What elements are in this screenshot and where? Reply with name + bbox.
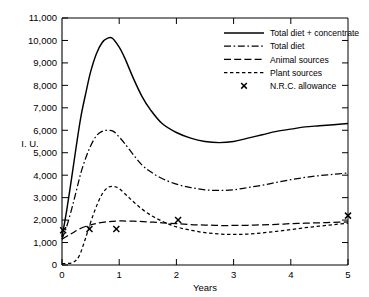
x-tick-label: 1	[117, 269, 122, 280]
y-tick-label: 0	[52, 259, 57, 270]
x-axis-title: Years	[193, 282, 217, 293]
chart-legend: Total diet + concentrateTotal dietAnimal…	[224, 28, 359, 91]
x-tick-label: 0	[59, 269, 64, 280]
y-axis-title: I. U.	[21, 138, 38, 149]
y-tick-label: 11,000	[29, 12, 57, 23]
y-tick-label: 3,000	[33, 192, 57, 203]
y-tick-label: 9,000	[33, 57, 57, 68]
line-chart: 01,0002,0003,0004,0005,0006,0007,0008,00…	[0, 0, 369, 297]
nrc-marker	[175, 217, 181, 223]
legend-label: Total diet + concentrate	[270, 28, 359, 38]
y-tick-label: 6,000	[33, 125, 57, 136]
y-tick-label: 7,000	[33, 102, 57, 113]
legend-label: Plant sources	[270, 68, 322, 78]
legend-label: Animal sources	[270, 55, 329, 65]
x-tick-label: 2	[174, 269, 179, 280]
y-tick-label: 10,000	[28, 35, 57, 46]
y-tick-label: 1,000	[33, 237, 57, 248]
y-tick-label: 2,000	[33, 214, 57, 225]
x-tick-label: 5	[345, 269, 350, 280]
y-tick-label: 4,000	[33, 170, 57, 181]
legend-label: Total diet	[270, 41, 305, 51]
legend-label: N.R.C. allowance	[270, 81, 337, 91]
legend-marker-x-icon	[241, 83, 247, 89]
x-tick-label: 4	[288, 269, 293, 280]
nrc-marker	[113, 226, 119, 232]
x-tick-label: 3	[231, 269, 236, 280]
x-axis-tick-labels: 012345	[59, 269, 350, 280]
chart-figure: 01,0002,0003,0004,0005,0006,0007,0008,00…	[0, 0, 369, 297]
series-line	[62, 221, 348, 239]
y-tick-label: 8,000	[33, 80, 57, 91]
